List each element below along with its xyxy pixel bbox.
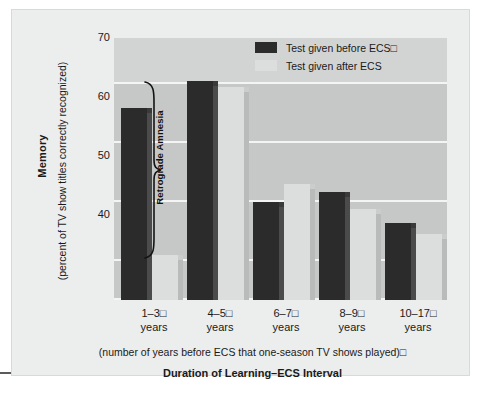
- y-tick-70: 70: [84, 31, 110, 43]
- bar-side: [178, 255, 183, 300]
- bar-face: [284, 184, 310, 300]
- x-cat-3-line2: years: [253, 320, 319, 334]
- legend-item-after[interactable]: Test given after ECS: [255, 58, 445, 73]
- annotation-label: Retrograde Amnesia: [154, 93, 165, 223]
- bar-top: [178, 255, 183, 260]
- bar-face: [385, 223, 411, 300]
- bar-top: [376, 209, 381, 214]
- bar-side: [244, 87, 249, 300]
- legend-swatch-before-icon: [255, 42, 277, 53]
- x-cat-2: 4–5□ years: [187, 306, 253, 334]
- bar-face: [319, 192, 345, 300]
- x-cat-5-line2: years: [385, 320, 451, 334]
- bar-side: [442, 234, 447, 300]
- legend-label-before: Test given before ECS□: [286, 42, 397, 54]
- bar-face: [218, 87, 244, 300]
- bar-top: [411, 223, 416, 228]
- x-axis-category-labels: 1–3□ years 4–5□ years 6–7□ years 8–9□ ye…: [114, 306, 447, 340]
- bar-after-1[interactable]: [152, 255, 178, 300]
- x-cat-1-line2: years: [121, 320, 187, 334]
- x-cat-2-line1: 4–5□: [187, 306, 253, 320]
- x-axis-title: Duration of Learning–ECS Interval: [23, 367, 482, 379]
- retrograde-amnesia-annotation: Retrograde Amnesia: [142, 80, 170, 260]
- y-tick-60: 60: [84, 90, 110, 102]
- x-cat-4-line1: 8–9□: [319, 306, 385, 320]
- x-cat-4: 8–9□ years: [319, 306, 385, 334]
- bar-after-2[interactable]: [218, 87, 244, 300]
- x-cat-3: 6–7□ years: [253, 306, 319, 334]
- figure-page: Memory (percent of TV show titles correc…: [0, 0, 482, 398]
- x-cat-5-line1: 10–17□: [385, 306, 451, 320]
- y-tick-40: 40: [84, 208, 110, 220]
- legend-item-before[interactable]: Test given before ECS□: [255, 40, 445, 55]
- bar-side: [376, 209, 381, 300]
- x-cat-5: 10–17□ years: [385, 306, 451, 334]
- y-tick-50: 50: [84, 149, 110, 161]
- bar-before-5[interactable]: [385, 223, 411, 300]
- bar-top: [244, 87, 249, 92]
- x-axis-subtitle: (number of years before ECS that one-sea…: [23, 346, 482, 358]
- bar-after-4[interactable]: [350, 209, 376, 300]
- figure-panel: Memory (percent of TV show titles correc…: [11, 9, 470, 376]
- legend: Test given before ECS□ Test given after …: [255, 40, 445, 76]
- bar-top: [213, 81, 218, 86]
- bar-before-4[interactable]: [319, 192, 345, 300]
- x-cat-3-line1: 6–7□: [253, 306, 319, 320]
- x-cat-1-line1: 1–3□: [121, 306, 187, 320]
- y-axis-title: Memory: [36, 56, 48, 256]
- y-axis-subtitle: (percent of TV show titles correctly rec…: [56, 26, 68, 316]
- bar-top: [310, 184, 315, 189]
- bar-after-5[interactable]: [416, 234, 442, 300]
- x-cat-2-line2: years: [187, 320, 253, 334]
- x-cat-4-line2: years: [319, 320, 385, 334]
- bar-before-2[interactable]: [187, 81, 213, 300]
- bar-top: [442, 234, 447, 239]
- bar-before-3[interactable]: [253, 202, 279, 300]
- bar-face: [350, 209, 376, 300]
- legend-swatch-after-icon: [255, 60, 277, 71]
- bar-face: [187, 81, 213, 300]
- y-axis-tick-labels: 70 60 50 40: [80, 38, 110, 300]
- bar-face: [152, 255, 178, 300]
- x-cat-1: 1–3□ years: [121, 306, 187, 334]
- bar-side: [310, 184, 315, 300]
- bar-face: [253, 202, 279, 300]
- legend-label-after: Test given after ECS: [286, 60, 382, 72]
- bar-top: [345, 192, 350, 197]
- bar-face: [416, 234, 442, 300]
- bar-after-3[interactable]: [284, 184, 310, 300]
